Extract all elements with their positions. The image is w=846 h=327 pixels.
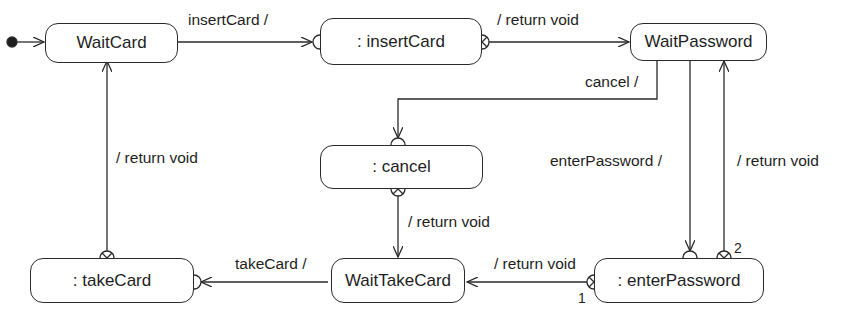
state-label: WaitPassword (644, 32, 752, 52)
exit-point-number-2: 2 (734, 240, 742, 256)
transition-label-return-void-insertcard: / return void (497, 11, 579, 29)
transition-label-return-void-enterpassword: / return void (494, 255, 576, 273)
state-label: : insertCard (357, 32, 445, 52)
state-label: : enterPassword (618, 271, 741, 291)
state-label: : cancel (372, 157, 431, 177)
state-enterpassword: : enterPassword (594, 258, 764, 303)
state-insertcard: : insertCard (320, 18, 482, 65)
transition-label-insertcard: insertCard / (188, 11, 268, 29)
transition-label-cancel: cancel / (585, 73, 638, 91)
initial-pseudostate (7, 37, 17, 47)
transition-label-return-void-cancel: / return void (408, 213, 490, 231)
state-label: WaitCard (76, 33, 146, 53)
state-label: WaitTakeCard (345, 271, 451, 291)
exit-point-number-1: 1 (578, 290, 586, 306)
state-waittakecard: WaitTakeCard (331, 258, 465, 303)
transition-label-return-void-takecard: / return void (116, 149, 198, 167)
state-cancel: : cancel (320, 145, 483, 189)
state-label: : takeCard (73, 271, 151, 291)
state-waitpassword: WaitPassword (630, 23, 767, 61)
transition-label-return-void-waitpassword: / return void (737, 152, 819, 170)
transition-label-takecard: takeCard / (235, 255, 307, 273)
state-waitcard: WaitCard (45, 23, 178, 63)
transition-label-enterpassword: enterPassword / (550, 152, 662, 170)
state-takecard: : takeCard (30, 258, 194, 303)
